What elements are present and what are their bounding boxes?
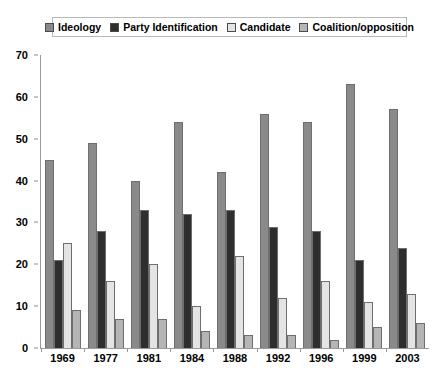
y-axis-tick-mark <box>34 222 38 223</box>
legend-swatch-icon <box>45 23 54 32</box>
bar[interactable] <box>226 210 235 348</box>
bar[interactable] <box>106 281 115 348</box>
legend-swatch-icon <box>227 23 236 32</box>
x-axis-tick-label: 1996 <box>300 353 343 364</box>
bar[interactable] <box>398 248 407 348</box>
bar[interactable] <box>174 122 183 348</box>
bar[interactable] <box>183 214 192 348</box>
y-axis-tick-label: 70 <box>16 50 28 61</box>
bar[interactable] <box>364 302 373 348</box>
y-axis-tick-mark <box>34 264 38 265</box>
x-axis-tick-label: 1984 <box>170 353 213 364</box>
bar[interactable] <box>312 231 321 348</box>
bar[interactable] <box>287 335 296 348</box>
bar[interactable] <box>140 210 149 348</box>
bar[interactable] <box>45 160 54 348</box>
bar[interactable] <box>346 84 355 348</box>
legend-item-label: Ideology <box>58 22 101 33</box>
bar-chart: · · · · · · · · IdeologyParty Identifica… <box>0 0 437 391</box>
bar[interactable] <box>355 260 364 348</box>
bar[interactable] <box>72 310 81 348</box>
bar[interactable] <box>416 323 425 348</box>
bar[interactable] <box>278 298 287 348</box>
bar[interactable] <box>303 122 312 348</box>
bar[interactable] <box>389 109 398 348</box>
bar[interactable] <box>201 331 210 348</box>
x-axis-tick-label: 2003 <box>386 353 429 364</box>
bar[interactable] <box>373 327 382 348</box>
bar-group <box>84 55 127 348</box>
x-axis-tick-label: 1969 <box>41 353 84 364</box>
bar[interactable] <box>115 319 124 348</box>
y-axis-tick-label: 10 <box>16 301 28 312</box>
bar[interactable] <box>269 227 278 348</box>
bar-group <box>213 55 256 348</box>
bar[interactable] <box>131 181 140 348</box>
legend-swatch-icon <box>299 23 308 32</box>
y-axis-tick-mark <box>34 55 38 56</box>
bar[interactable] <box>192 306 201 348</box>
legend-item[interactable]: Ideology <box>45 22 101 33</box>
y-axis-tick-mark <box>34 348 38 349</box>
bar[interactable] <box>321 281 330 348</box>
legend-item-label: Party Identification <box>123 22 218 33</box>
legend-item-label: Candidate <box>240 22 291 33</box>
x-axis-tick-label: 1999 <box>343 353 386 364</box>
bars-container <box>41 55 429 348</box>
bar[interactable] <box>330 340 339 348</box>
y-axis-tick-mark <box>34 306 38 307</box>
scan-artifact-text: · · · · · · · · <box>0 0 41 3</box>
bar-group <box>127 55 170 348</box>
bar[interactable] <box>54 260 63 348</box>
bar[interactable] <box>407 294 416 348</box>
y-axis-tick-label: 60 <box>16 91 28 102</box>
y-axis-tick-label: 30 <box>16 217 28 228</box>
y-axis-tick-label: 20 <box>16 259 28 270</box>
bar-group <box>386 55 429 348</box>
bar[interactable] <box>88 143 97 348</box>
legend-item[interactable]: Coalition/opposition <box>299 22 413 33</box>
scan-artifact-strip: · · · · · · · · <box>0 0 437 9</box>
x-axis-tick-label: 1988 <box>213 353 256 364</box>
y-axis-tick-mark <box>34 180 38 181</box>
bar[interactable] <box>158 319 167 348</box>
y-axis-tick-label: 50 <box>16 133 28 144</box>
y-axis-tick-label: 40 <box>16 175 28 186</box>
plot-area: 010203040506070 196919771981198419881992… <box>0 50 437 391</box>
bar-group <box>41 55 84 348</box>
x-axis-tick-label: 1981 <box>127 353 170 364</box>
bar[interactable] <box>97 231 106 348</box>
legend-swatch-icon <box>110 23 119 32</box>
x-axis: 196919771981198419881992199619992003 <box>41 353 429 364</box>
bar[interactable] <box>260 114 269 348</box>
bar-group <box>257 55 300 348</box>
bar[interactable] <box>244 335 253 348</box>
chart-legend: IdeologyParty IdentificationCandidateCoa… <box>52 17 407 37</box>
bar-group <box>170 55 213 348</box>
bar[interactable] <box>235 256 244 348</box>
x-axis-tick-label: 1992 <box>257 353 300 364</box>
bar[interactable] <box>217 172 226 348</box>
y-axis-tick-mark <box>34 138 38 139</box>
legend-item-label: Coalition/opposition <box>312 22 413 33</box>
bar-group <box>343 55 386 348</box>
legend-item[interactable]: Candidate <box>227 22 291 33</box>
legend-item[interactable]: Party Identification <box>110 22 218 33</box>
bar[interactable] <box>149 264 158 348</box>
bar-group <box>300 55 343 348</box>
x-axis-tick-label: 1977 <box>84 353 127 364</box>
y-axis: 010203040506070 <box>0 50 34 348</box>
y-axis-tick-label: 0 <box>22 343 28 354</box>
y-axis-tick-mark <box>34 96 38 97</box>
bar[interactable] <box>63 243 72 348</box>
